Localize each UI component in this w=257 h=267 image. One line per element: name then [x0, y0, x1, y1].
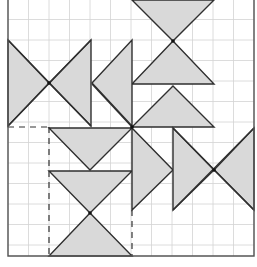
node-center [130, 125, 134, 129]
node-left-x [47, 81, 51, 85]
node-top-neck [171, 39, 175, 43]
node-lower-neck [88, 211, 92, 215]
tessellation-diagram [0, 0, 257, 267]
node-right-x [212, 168, 216, 172]
